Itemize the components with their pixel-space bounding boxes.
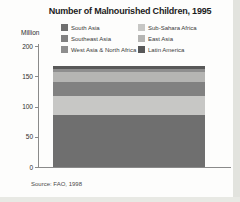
legend-label: Southeast Asia [71, 36, 111, 42]
stacked-bar-1995 [53, 66, 205, 167]
legend-swatch [61, 35, 68, 42]
scan-edge-bottom [0, 197, 240, 202]
chart-title: Number of Malnourished Children, 1995 [30, 6, 230, 16]
legend-swatch [138, 24, 145, 31]
bar-segment-south-asia [53, 115, 205, 167]
y-tick-mark [35, 137, 38, 138]
y-tick-mark [35, 107, 38, 108]
legend-label: East Asia [148, 36, 173, 42]
legend-item: South Asia [61, 22, 138, 33]
y-tick-label: 0 [7, 164, 33, 171]
legend-label: Sub-Sahara Africa [148, 25, 197, 31]
y-tick-label: 100 [7, 103, 33, 110]
source-note: Source: FAO, 1998 [31, 181, 82, 187]
x-axis-baseline [38, 167, 231, 168]
bar-segment-sub-sahara-africa [53, 96, 205, 115]
plot-area [39, 46, 231, 167]
legend-item: Southeast Asia [61, 33, 138, 44]
legend-swatch [61, 24, 68, 31]
scan-edge-right [233, 0, 240, 202]
bar-segment-southeast-asia [53, 82, 205, 95]
y-axis-unit-label: Million [21, 29, 39, 36]
y-tick-label: 150 [7, 73, 33, 80]
y-tick-label: 50 [7, 133, 33, 140]
legend-swatch [138, 35, 145, 42]
bar-segment-east-asia [53, 72, 205, 82]
legend-label: South Asia [71, 25, 100, 31]
legend-item: Sub-Sahara Africa [138, 22, 233, 33]
legend-item: East Asia [138, 33, 233, 44]
y-tick-mark [35, 46, 38, 47]
y-tick-label: 200 [7, 43, 33, 50]
y-tick-mark [35, 167, 38, 168]
y-tick-mark [35, 76, 38, 77]
chart-canvas: Number of Malnourished Children, 1995 Mi… [0, 0, 233, 197]
